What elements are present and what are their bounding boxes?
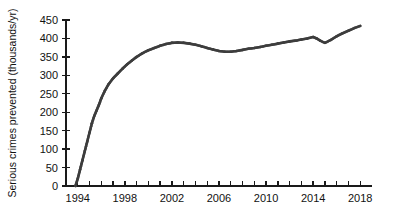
x-axis: 1994199820022006201020142018 bbox=[66, 181, 373, 204]
y-tick-label: 400 bbox=[40, 32, 58, 44]
y-tick-label: 50 bbox=[46, 162, 58, 174]
series-markers bbox=[74, 25, 361, 188]
y-tick-label: 0 bbox=[52, 180, 58, 192]
line-chart: 050100150200250300350400450 199419982002… bbox=[0, 0, 394, 224]
x-tick-label: 2014 bbox=[301, 192, 325, 204]
y-tick-label: 100 bbox=[40, 143, 58, 155]
data-series bbox=[74, 25, 361, 188]
y-tick-label: 250 bbox=[40, 88, 58, 100]
chart-container: 050100150200250300350400450 199419982002… bbox=[0, 0, 394, 224]
x-tick-label: 1998 bbox=[113, 192, 137, 204]
y-tick-label: 200 bbox=[40, 106, 58, 118]
x-tick-label: 2010 bbox=[254, 192, 278, 204]
y-tick-label: 300 bbox=[40, 69, 58, 81]
x-tick-label: 2006 bbox=[207, 192, 231, 204]
x-tick-label: 2002 bbox=[160, 192, 184, 204]
y-tick-label: 150 bbox=[40, 125, 58, 137]
y-axis: 050100150200250300350400450 bbox=[40, 14, 70, 192]
x-tick-label: 1994 bbox=[66, 192, 90, 204]
x-tick-label: 2018 bbox=[348, 192, 372, 204]
y-tick-label: 350 bbox=[40, 51, 58, 63]
y-axis-title: Serious crimes prevented (thousands/yr) bbox=[6, 8, 18, 197]
y-tick-label: 450 bbox=[40, 14, 58, 26]
